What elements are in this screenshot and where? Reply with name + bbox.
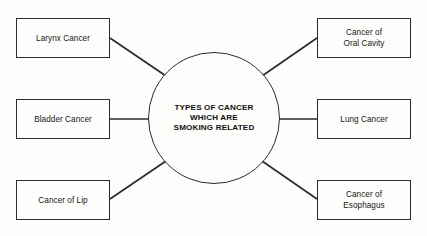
node-bladder-cancer[interactable]: Bladder Cancer (16, 99, 110, 139)
node-cancer-of-lip[interactable]: Cancer of Lip (16, 180, 110, 220)
node-label-lung-cancer: Lung Cancer (340, 114, 387, 125)
node-label-larynx-cancer: Larynx Cancer (36, 33, 90, 44)
connector-larynx-cancer (110, 38, 166, 76)
node-cancer-of-esophagus[interactable]: Cancer of Esophagus (317, 180, 411, 220)
node-label-cancer-of-lip: Cancer of Lip (38, 195, 87, 206)
diagram-canvas: TYPES OF CANCER WHICH ARE SMOKING RELATE… (0, 0, 427, 236)
connector-cancer-of-esophagus (262, 161, 317, 199)
node-label-cancer-of-esophagus: Cancer of Esophagus (343, 189, 384, 211)
node-label-bladder-cancer: Bladder Cancer (34, 114, 92, 125)
node-cancer-of-oral-cavity[interactable]: Cancer of Oral Cavity (317, 18, 411, 58)
connector-cancer-of-lip (110, 161, 166, 199)
node-label-cancer-of-oral-cavity: Cancer of Oral Cavity (343, 27, 384, 49)
hub-node: TYPES OF CANCER WHICH ARE SMOKING RELATE… (148, 52, 280, 184)
hub-label: TYPES OF CANCER WHICH ARE SMOKING RELATE… (174, 103, 255, 134)
connector-cancer-of-oral-cavity (262, 38, 317, 76)
node-larynx-cancer[interactable]: Larynx Cancer (16, 18, 110, 58)
node-lung-cancer[interactable]: Lung Cancer (317, 99, 411, 139)
